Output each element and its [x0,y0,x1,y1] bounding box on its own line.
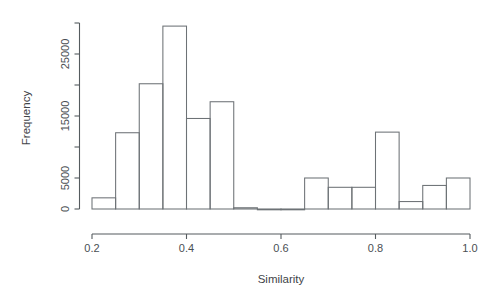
y-axis: 050001500025000 [59,23,80,212]
x-axis-tick-label: 1.0 [462,242,477,254]
y-axis-tick-label: 25000 [59,39,71,70]
histogram-bar [163,26,187,209]
histogram-bar [399,202,423,209]
histogram-bar [234,208,258,209]
x-axis-title: Similarity [258,273,305,285]
histogram-bar [376,132,400,209]
y-axis-tick-label: 0 [59,206,71,212]
histogram-bar [281,209,305,210]
x-axis-tick-label: 0.2 [84,242,99,254]
histogram-bar [446,178,470,209]
x-axis: 0.20.40.60.81.0 [84,234,477,254]
histogram-bar [116,133,140,209]
histogram-bar [305,178,329,209]
histogram-bars [92,26,470,210]
similarity-frequency-histogram: 050001500025000 0.20.40.60.81.0 Frequenc… [0,0,504,302]
x-axis-tick-label: 0.6 [273,242,288,254]
histogram-bar [328,187,352,209]
x-axis-tick-label: 0.4 [179,242,194,254]
y-axis-tick-label: 5000 [59,166,71,190]
histogram-bar [352,187,376,209]
histogram-figure: 050001500025000 0.20.40.60.81.0 Frequenc… [0,0,504,302]
histogram-bar [139,84,163,209]
histogram-bar [257,209,281,210]
y-axis-title: Frequency [20,91,32,146]
histogram-bar [423,185,447,209]
y-axis-tick-label: 15000 [59,101,71,132]
histogram-bar [187,118,211,209]
histogram-bar [210,102,234,209]
histogram-bar [92,198,116,209]
x-axis-tick-label: 0.8 [368,242,383,254]
